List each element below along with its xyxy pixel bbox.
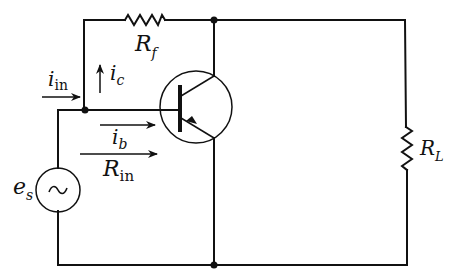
pnp-transistor (160, 71, 232, 143)
junction-node (82, 107, 89, 114)
top-wire (84, 20, 405, 110)
label-i-c: ic (110, 61, 124, 88)
load-resistor-rl (402, 127, 412, 170)
circuit-diagram: Rf iin ic ib Rin es RL (0, 0, 450, 276)
feedback-resistor-rf (125, 15, 165, 25)
label-rf: Rf (134, 31, 160, 61)
junction-node (211, 262, 218, 269)
label-i-b: ib (112, 125, 127, 152)
sine-wave-icon (49, 187, 67, 194)
label-e-s: es (13, 174, 33, 203)
label-rl: RL (419, 136, 444, 164)
label-r-in: Rin (102, 156, 134, 185)
label-i-in: iin (48, 67, 68, 93)
ac-source (36, 168, 80, 212)
junction-node (211, 17, 218, 24)
bottom-wire (58, 211, 407, 265)
